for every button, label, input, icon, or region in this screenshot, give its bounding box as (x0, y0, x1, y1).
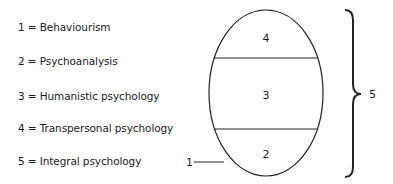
region-label-middle: 3 (263, 89, 270, 102)
region-label-top: 4 (263, 32, 270, 45)
egg-diagram: 4 3 2 1 5 (0, 0, 393, 184)
region-label-bottom: 2 (263, 148, 270, 161)
brace-label: 5 (369, 88, 376, 101)
pointer-label: 1 (186, 156, 193, 169)
curly-brace-icon (345, 10, 361, 177)
